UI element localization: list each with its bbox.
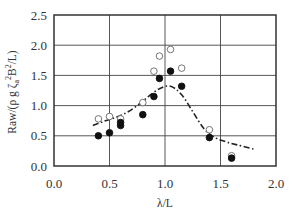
open-circle-marker (151, 68, 158, 75)
x-tick-label: 0.0 (46, 176, 62, 191)
filled-circle-marker (228, 155, 235, 162)
y-tick-label: 1.0 (31, 98, 47, 113)
filled-circle-marker (178, 83, 185, 90)
filled-circle-marker (156, 75, 163, 82)
open-circle-marker (140, 99, 147, 106)
grid-lines (54, 15, 276, 166)
open-circle-marker (178, 65, 185, 72)
chart: 0.00.51.01.52.0 0.00.51.01.52.02.5 λ/L R… (0, 0, 295, 211)
x-tick-label: 0.5 (101, 176, 117, 191)
y-tick-label: 1.5 (31, 68, 47, 83)
open-circle-marker (95, 116, 102, 123)
open-circle-marker (167, 46, 174, 53)
x-axis-ticks: 0.00.51.01.52.0 (46, 176, 284, 191)
fit-curve (93, 86, 254, 149)
open-circle-marker (156, 53, 163, 60)
dash-dot-curve (93, 86, 254, 149)
y-tick-label: 0.5 (31, 128, 47, 143)
open-circle-marker (106, 113, 113, 120)
filled-circle-marker (167, 68, 174, 75)
y-axis-ticks: 0.00.51.01.52.02.5 (31, 8, 47, 174)
filled-circle-marker (151, 93, 158, 100)
x-tick-label: 2.0 (268, 176, 284, 191)
x-tick-label: 1.5 (212, 176, 228, 191)
filled-circle-marker (106, 129, 113, 136)
filled-circle-marker (140, 111, 147, 118)
y-axis-label: Raw/(ρ g ζa2B2/L) (4, 50, 21, 134)
filled-circle-marker (117, 119, 124, 126)
x-axis-label: λ/L (157, 197, 173, 209)
y-tick-label: 2.0 (31, 38, 47, 53)
y-tick-label: 2.5 (31, 8, 47, 23)
filled-circle-marker (95, 133, 102, 140)
y-tick-label: 0.0 (31, 159, 47, 174)
open-circle-marker (206, 126, 213, 133)
x-tick-label: 1.0 (157, 176, 173, 191)
filled-circle-marker (206, 134, 213, 141)
